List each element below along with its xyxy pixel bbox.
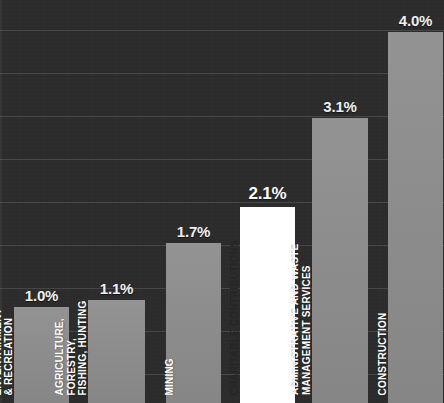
bar-label-line: FISHING, HUNTING xyxy=(77,300,89,395)
bar-value-arts-entertainment-recreation: 1.0% xyxy=(25,287,58,304)
bar-label-line: & RECREATION xyxy=(3,317,15,395)
bar-group-construction[interactable]: 4.0%CONSTRUCTION xyxy=(388,0,443,403)
bar-mining[interactable] xyxy=(166,243,221,403)
bar-group-administrative-waste-management-services[interactable]: 3.1%ADMINISTRATIVE AND WASTEMANAGEMENT S… xyxy=(312,0,368,403)
bar-value-construction: 4.0% xyxy=(399,12,432,29)
bar-chart: 1.0%ARTS,ENTERTAINMENT& RECREATION1.1%AG… xyxy=(0,0,444,403)
bar-label-line: CONSTRUCTION xyxy=(377,312,389,395)
bar-value-agriculture-forestry-fishing-hunting: 1.1% xyxy=(100,280,133,297)
bar-label-line: MANAGEMENT SERVICES xyxy=(301,265,313,395)
bar-label-line: ENTERTAINMENT xyxy=(0,308,3,395)
bar-group-agriculture-forestry-fishing-hunting[interactable]: 1.1%AGRICULTURE,FORESTRY,FISHING, HUNTIN… xyxy=(88,0,145,403)
bar-group-charitable-contributions[interactable]: 2.1%CHARITABLE CONTRIBUTIONS xyxy=(240,0,295,403)
bar-construction[interactable] xyxy=(388,32,443,403)
bar-charitable-contributions[interactable] xyxy=(240,207,295,403)
bar-group-arts-entertainment-recreation[interactable]: 1.0%ARTS,ENTERTAINMENT& RECREATION xyxy=(14,0,69,403)
bar-value-charitable-contributions: 2.1% xyxy=(249,184,287,204)
bar-value-mining: 1.7% xyxy=(177,223,210,240)
bar-label-line: CHARITABLE CONTRIBUTIONS xyxy=(229,240,241,395)
bar-administrative-waste-management-services[interactable] xyxy=(312,118,368,403)
bars-layer: 1.0%ARTS,ENTERTAINMENT& RECREATION1.1%AG… xyxy=(0,0,444,403)
bar-agriculture-forestry-fishing-hunting[interactable] xyxy=(88,300,145,403)
bar-value-administrative-waste-management-services: 3.1% xyxy=(323,98,356,115)
bar-arts-entertainment-recreation[interactable] xyxy=(14,307,69,403)
bar-group-mining[interactable]: 1.7%MINING xyxy=(166,0,221,403)
